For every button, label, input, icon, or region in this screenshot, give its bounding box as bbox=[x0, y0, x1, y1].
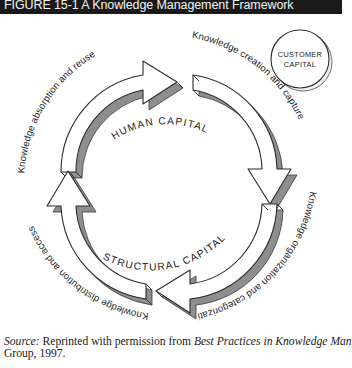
source-note-line2: Group, 1997. bbox=[4, 348, 66, 361]
arrow-knowledge-distribution-and-access bbox=[47, 171, 152, 305]
source-publication-title: Best Practices in Knowledge Man bbox=[194, 335, 352, 348]
arrow-knowledge-creation-and-capture bbox=[193, 75, 297, 210]
label-structural-capital: STRUCTURAL CAPITAL bbox=[102, 231, 228, 272]
label-human-capital: HUMAN CAPITAL bbox=[109, 115, 211, 141]
customer-capital-line1: CUSTOMER bbox=[278, 50, 322, 59]
customer-capital-line2: CAPITAL bbox=[284, 60, 316, 69]
knowledge-management-cycle-diagram: CUSTOMER CAPITAL Knowledge absorption an… bbox=[0, 14, 342, 336]
figure-title-bar: FIGURE 15-1 A Knowledge Management Frame… bbox=[0, 0, 342, 14]
figure-title: FIGURE 15-1 A Knowledge Management Frame… bbox=[4, 0, 294, 12]
